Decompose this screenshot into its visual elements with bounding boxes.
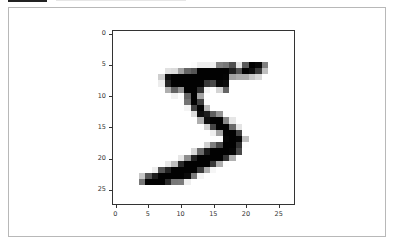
y-tick-label: 15 <box>86 123 106 131</box>
x-tick-mark <box>148 204 149 208</box>
y-tick-mark <box>109 34 113 35</box>
x-tick-mark <box>279 204 280 208</box>
x-tick-mark <box>116 204 117 208</box>
x-tick-label: 15 <box>203 210 223 218</box>
y-tick-label: 5 <box>86 60 106 68</box>
x-tick-mark <box>246 204 247 208</box>
cropped-header-text <box>56 0 186 1</box>
output-prompt-bar <box>8 0 47 2</box>
y-tick-mark <box>109 65 113 66</box>
y-tick-label: 10 <box>86 92 106 100</box>
x-tick-label: 5 <box>138 210 158 218</box>
y-tick-mark <box>109 127 113 128</box>
y-tick-label: 25 <box>86 185 106 193</box>
digit-image-heatmap <box>113 31 294 204</box>
x-tick-label: 0 <box>105 210 125 218</box>
y-tick-mark <box>109 96 113 97</box>
pixel-cell <box>288 198 294 204</box>
image-plot-axes <box>112 30 295 205</box>
x-tick-label: 20 <box>236 210 256 218</box>
y-tick-mark <box>109 190 113 191</box>
x-tick-label: 25 <box>269 210 289 218</box>
x-tick-label: 10 <box>171 210 191 218</box>
y-tick-label: 0 <box>86 29 106 37</box>
y-tick-mark <box>109 159 113 160</box>
x-tick-mark <box>214 204 215 208</box>
x-tick-mark <box>181 204 182 208</box>
y-tick-label: 20 <box>86 154 106 162</box>
